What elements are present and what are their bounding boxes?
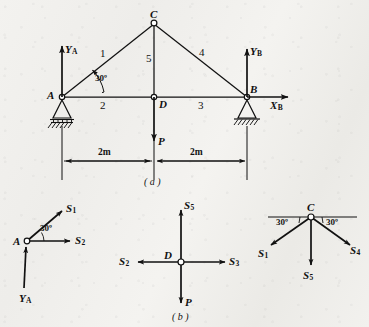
truss-node-C-pin xyxy=(151,20,157,26)
joint-c-node-label: C xyxy=(307,202,314,213)
truss-member-label-3: 3 xyxy=(198,100,204,111)
joint-d-force-label-S5: S5 xyxy=(184,200,194,212)
joint-a-angle-arc xyxy=(42,233,45,242)
joint-c-angle-label-right: 30º xyxy=(326,218,338,227)
truss-angle-arc-tail xyxy=(102,92,104,93)
truss-member-label-5: 5 xyxy=(146,53,152,64)
joint-a-angle-label: 30º xyxy=(40,224,52,233)
load-P-label: P xyxy=(158,136,165,147)
joint-c-angle-tick-left xyxy=(299,217,300,223)
joint-c-force-label-S5: S5 xyxy=(303,270,313,282)
truss-node-label-C: C xyxy=(150,9,157,20)
truss-member-1 xyxy=(62,24,154,97)
joint-d-node-pin xyxy=(178,259,184,265)
joint-c-force-label-S4: S4 xyxy=(350,245,360,257)
figure-vector-layer xyxy=(0,0,369,327)
reaction-YA-label: YA xyxy=(65,44,77,56)
reaction-YB-label: YB xyxy=(250,46,262,58)
support-B xyxy=(234,100,260,125)
joint-a-node-pin xyxy=(24,238,30,244)
joint-c-angle-tick-right xyxy=(322,217,323,223)
joint-a-node-label: A xyxy=(13,236,20,247)
joint-d-force-label-S2: S2 xyxy=(119,256,129,268)
truss-node-label-D: D xyxy=(159,99,167,110)
truss-member-label-4: 4 xyxy=(199,47,205,58)
dimension-label-right: 2m xyxy=(190,148,203,158)
caption-part-a: ( a ) xyxy=(144,177,161,187)
support-A xyxy=(48,100,74,128)
joint-d-diagram xyxy=(138,210,225,303)
dimension-label-left: 2m xyxy=(98,148,111,158)
truss-member-4 xyxy=(154,24,247,97)
joint-d-force-label-S3: S3 xyxy=(229,256,239,268)
joint-c-angle-label-left: 30º xyxy=(276,218,288,227)
joint-d-force-label-P: P xyxy=(185,297,192,308)
reaction-XB-label: XB xyxy=(270,100,283,112)
joint-a-force-YA-arrow xyxy=(24,247,26,288)
truss-member-label-1: 1 xyxy=(100,48,106,59)
joint-c-force-label-S1: S1 xyxy=(258,248,268,260)
joint-a-force-label-YA: YA xyxy=(19,293,31,305)
truss-angle-label: 30º xyxy=(95,74,107,83)
joint-d-node-label: D xyxy=(164,250,172,261)
joint-a-force-label-S1: S1 xyxy=(66,203,76,215)
figure-root: A B C D 1 2 3 4 5 30º YA YB XB P 2m 2m (… xyxy=(0,0,369,327)
truss-node-label-A: A xyxy=(47,90,54,101)
truss-node-label-B: B xyxy=(250,84,257,95)
truss-member-label-2: 2 xyxy=(100,100,106,111)
joint-c-node-pin xyxy=(308,214,314,220)
caption-part-b: ( b ) xyxy=(172,312,189,322)
joint-a-force-label-S2: S2 xyxy=(75,235,85,247)
